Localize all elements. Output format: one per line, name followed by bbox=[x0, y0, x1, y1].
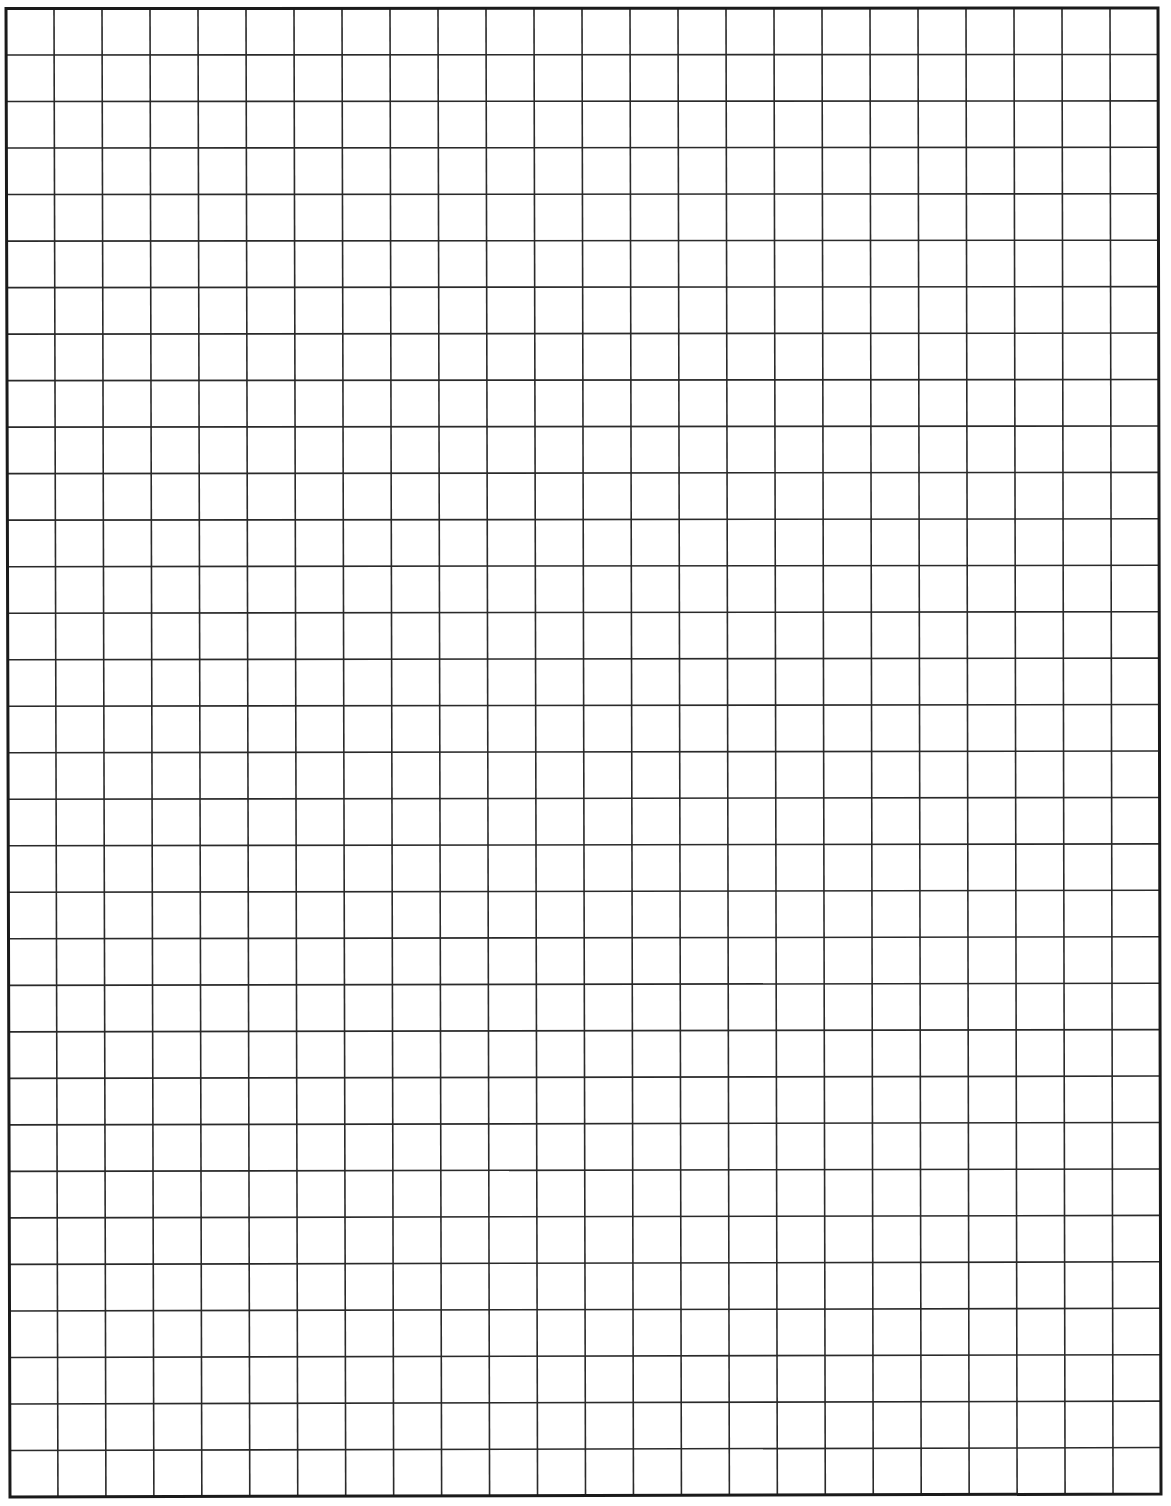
grid-horizontal-line bbox=[8, 890, 1159, 892]
grid-horizontal-line bbox=[8, 844, 1159, 846]
grid-horizontal-line bbox=[7, 194, 1159, 195]
graph-paper-sheet bbox=[0, 0, 1171, 1506]
grid-horizontal-line bbox=[7, 287, 1159, 288]
grid-horizontal-line bbox=[7, 519, 1159, 520]
graph-grid bbox=[0, 0, 1171, 1506]
grid-horizontal-line bbox=[8, 658, 1160, 660]
grid-horizontal-line bbox=[7, 426, 1159, 427]
grid-inner-lines bbox=[6, 8, 1161, 1497]
grid-horizontal-line bbox=[8, 751, 1160, 753]
grid-horizontal-line bbox=[8, 705, 1160, 707]
grid-horizontal-line bbox=[8, 612, 1160, 614]
grid-horizontal-line bbox=[7, 240, 1159, 241]
grid-horizontal-line bbox=[7, 472, 1159, 473]
grid-horizontal-line bbox=[6, 54, 1158, 55]
grid-horizontal-line bbox=[9, 1030, 1160, 1032]
grid-horizontal-line bbox=[9, 937, 1160, 939]
grid-horizontal-line bbox=[6, 147, 1158, 148]
grid-horizontal-line bbox=[9, 983, 1160, 985]
grid-horizontal-line bbox=[6, 101, 1158, 102]
grid-horizontal-line bbox=[7, 380, 1159, 381]
grid-horizontal-line bbox=[7, 333, 1159, 334]
grid-horizontal-line bbox=[8, 565, 1160, 566]
grid-horizontal-line bbox=[8, 797, 1159, 799]
